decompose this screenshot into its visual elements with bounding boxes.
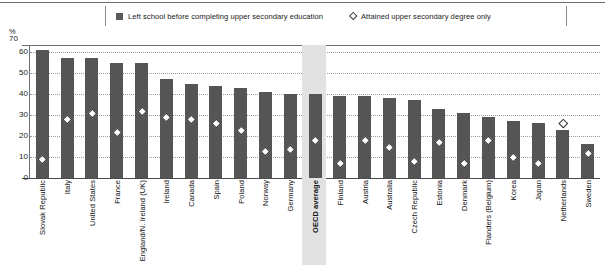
diamond-marker-france [113, 128, 120, 135]
x-axis-label-italy: Italy [63, 180, 72, 194]
diamond-marker-slovak-republic [39, 156, 46, 163]
x-axis-label-england-n-ireland-uk: England/N. Ireland (UK) [138, 180, 147, 261]
diamond-marker-czech-republic [411, 158, 418, 165]
x-axis-label-czech-republic: Czech Republic [410, 180, 419, 234]
x-axis-label-poland: Poland [237, 180, 246, 204]
diamond-marker-united-states [88, 109, 95, 116]
bar-korea [507, 121, 520, 178]
bar-france [110, 63, 123, 179]
x-axis-label-sweden: Sweden [584, 180, 593, 208]
diamond-marker-italy [64, 116, 71, 123]
diamond-marker-denmark [460, 160, 467, 167]
x-axis-label-austria: Austria [361, 180, 370, 204]
diamond-marker-norway [262, 147, 269, 154]
x-axis-label-finland: Finland [336, 180, 345, 205]
x-axis-label-japan: Japan [534, 180, 543, 201]
bar-czech-republic [408, 100, 421, 178]
x-axis-label-norway: Norway [261, 180, 270, 206]
x-axis-label-australia: Australia [385, 180, 394, 210]
x-axis-label-flanders-belgium: Flanders (Belgium) [484, 180, 493, 245]
bar-england-n-ireland-uk [135, 63, 148, 179]
diamond-marker-austria [361, 137, 368, 144]
bar-flanders-belgium [482, 117, 495, 178]
diamond-marker-korea [510, 154, 517, 161]
x-axis-label-estonia: Estonia [435, 180, 444, 206]
diamond-marker-japan [535, 160, 542, 167]
bar-japan [532, 123, 545, 178]
x-axis-category-labels: Slovak RepublicItalyUnited StatesFranceE… [0, 180, 605, 277]
x-axis-label-france: France [113, 180, 122, 204]
x-axis-label-slovak-republic: Slovak Republic [38, 180, 47, 235]
diamond-marker-england-n-ireland-uk [138, 107, 145, 114]
diamond-marker-germany [287, 145, 294, 152]
x-axis-label-ireland: Ireland [162, 180, 171, 203]
x-axis-label-korea: Korea [509, 180, 518, 200]
x-axis-label-canada: Canada [187, 180, 196, 207]
bar-spain [209, 86, 222, 178]
diamond-marker-ireland [163, 114, 170, 121]
bar-norway [259, 92, 272, 178]
diamond-marker-sweden [584, 149, 591, 156]
diamond-marker-netherlands [559, 120, 566, 127]
x-axis-label-germany: Germany [286, 180, 295, 211]
diamond-marker-spain [212, 120, 219, 127]
diamond-marker-flanders-belgium [485, 137, 492, 144]
x-axis-label-denmark: Denmark [460, 180, 469, 211]
diamond-marker-finland [336, 160, 343, 167]
x-axis-label-netherlands: Netherlands [559, 180, 568, 221]
diamond-marker-canada [188, 116, 195, 123]
bar-australia [383, 98, 396, 178]
diamond-marker-poland [237, 126, 244, 133]
diamond-marker-australia [386, 143, 393, 150]
x-axis-label-spain: Spain [212, 180, 221, 200]
bar-ireland [160, 79, 173, 178]
x-axis-label-united-states: United States [88, 180, 97, 226]
diamond-marker-estonia [435, 139, 442, 146]
bar-canada [185, 84, 198, 179]
x-axis-label-oecd-average: OECD average [311, 180, 320, 233]
bar-germany [284, 94, 297, 178]
bar-netherlands [556, 130, 569, 178]
diamond-marker-oecd-average [312, 137, 319, 144]
